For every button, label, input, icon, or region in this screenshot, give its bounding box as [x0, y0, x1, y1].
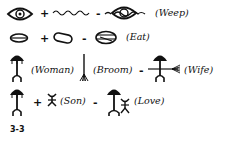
- component-label-woman: (Woman): [31, 65, 74, 75]
- food-icon: [52, 32, 74, 44]
- equals-dash-operator: -: [93, 97, 98, 108]
- water-waves-icon: [52, 9, 90, 17]
- mouth-with-food-icon: [94, 30, 118, 45]
- equation-row-love: + (Son) - (Love): [0, 86, 226, 118]
- plus-operator: +: [33, 97, 42, 108]
- plus-operator: +: [40, 33, 49, 44]
- broom-icon: [79, 54, 89, 82]
- mouth-icon: [9, 33, 29, 43]
- meaning-label-wife: (Wife): [184, 65, 213, 75]
- woman-icon: [9, 53, 25, 83]
- woman-with-son-icon: [104, 87, 132, 117]
- equation-row-eat: + - (Eat): [0, 26, 226, 48]
- son-icon: [47, 93, 57, 107]
- component-label-broom: (Broom): [93, 65, 132, 75]
- eye-icon: [6, 6, 34, 22]
- equation-row-wife: (Woman) (Broom) - (Wife): [0, 50, 226, 84]
- meaning-label-eat: (Eat): [126, 32, 150, 42]
- figure-label: 3-3: [10, 125, 24, 134]
- eye-with-tears-icon: [104, 4, 146, 22]
- wife-icon: [148, 53, 182, 83]
- equation-row-weep: + - (Weep): [0, 0, 226, 26]
- meaning-label-weep: (Weep): [155, 8, 189, 18]
- woman-icon: [9, 87, 25, 117]
- meaning-label-love: (Love): [134, 96, 164, 106]
- plus-operator: +: [40, 8, 49, 19]
- equals-dash-operator: -: [96, 8, 101, 19]
- component-label-son: (Son): [60, 96, 86, 106]
- equals-dash-operator: -: [139, 65, 144, 76]
- equals-dash-operator: -: [82, 33, 87, 44]
